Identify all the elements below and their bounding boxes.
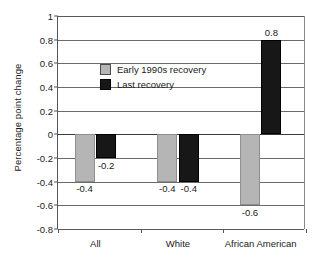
legend-item: Early 1990s recovery — [100, 62, 206, 77]
y-axis-title: Percentage point change — [12, 13, 23, 223]
x-axis-tick-mark — [306, 229, 307, 233]
legend-label: Last recovery — [117, 79, 174, 90]
y-axis-tick-mark — [54, 158, 58, 159]
y-axis-tick-mark — [54, 63, 58, 64]
x-axis-tick-mark — [141, 229, 142, 233]
y-axis-tick-mark — [54, 134, 58, 135]
x-axis-category-label: White — [166, 238, 190, 249]
y-axis-tick-label: 0.2 — [40, 105, 53, 116]
legend-label: Early 1990s recovery — [117, 64, 206, 75]
y-axis-tick-mark — [54, 110, 58, 111]
y-axis-tick-label: 0.4 — [40, 82, 53, 93]
bar-chart-figure: Percentage point change 10.80.60.40.20-0… — [0, 0, 326, 265]
y-axis-tick-label: -0.4 — [37, 176, 53, 187]
y-axis-tick-mark — [54, 181, 58, 182]
y-axis-tick-mark — [54, 16, 58, 17]
legend-item: Last recovery — [100, 77, 206, 92]
bar-value-label: -0.2 — [98, 160, 114, 171]
bar-early-1990s — [157, 134, 177, 181]
bar-last-recovery — [179, 134, 199, 181]
gridline — [58, 205, 304, 206]
gridline — [58, 16, 304, 17]
bar-early-1990s — [75, 134, 95, 181]
bar-value-label: -0.6 — [242, 207, 258, 218]
legend-swatch-icon — [100, 79, 111, 90]
bar-value-label: 0.8 — [265, 27, 278, 38]
x-axis-category-label: African American — [225, 238, 297, 249]
bar-value-label: -0.4 — [76, 183, 92, 194]
x-axis-category-label: All — [90, 238, 101, 249]
y-axis-tick-label: 1 — [48, 11, 53, 22]
legend-swatch-icon — [100, 64, 111, 75]
gridline — [58, 229, 304, 230]
y-axis-tick-label: 0 — [48, 129, 53, 140]
bar-value-label: -0.4 — [181, 183, 197, 194]
plot-area: 10.80.60.40.20-0.2-0.4-0.6-0.8-0.4-0.2Al… — [57, 16, 305, 229]
y-axis-tick-label: -0.6 — [37, 200, 53, 211]
bar-last-recovery — [96, 134, 116, 158]
y-axis-tick-label: -0.2 — [37, 153, 53, 164]
x-axis-tick-mark — [223, 229, 224, 233]
bar-early-1990s — [240, 134, 260, 205]
bar-value-label: -0.4 — [159, 183, 175, 194]
y-axis-tick-label: 0.6 — [40, 58, 53, 69]
chart-legend: Early 1990s recoveryLast recovery — [100, 62, 206, 92]
y-axis-tick-label: 0.8 — [40, 34, 53, 45]
y-axis-tick-label: -0.8 — [37, 224, 53, 235]
bar-last-recovery — [261, 40, 281, 135]
y-axis-tick-mark — [54, 205, 58, 206]
x-axis-tick-mark — [58, 229, 59, 233]
y-axis-tick-mark — [54, 39, 58, 40]
y-axis-tick-mark — [54, 87, 58, 88]
